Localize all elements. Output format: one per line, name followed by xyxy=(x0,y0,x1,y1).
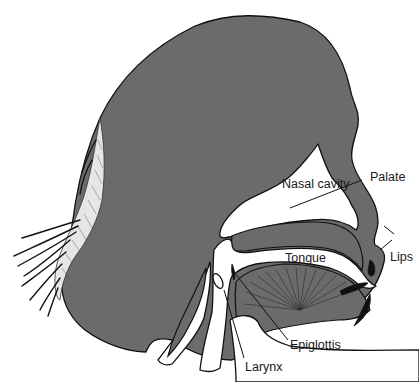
larynx-label: Larynx xyxy=(245,360,283,374)
vocal-tract-diagram: Palate Nasal cavity Tongue Lips Epiglott… xyxy=(0,0,419,382)
lips-leader-lower xyxy=(380,240,392,250)
palate-label: Palate xyxy=(370,170,405,184)
nasal-cavity-label: Nasal cavity xyxy=(282,177,350,191)
tongue-label: Tongue xyxy=(285,251,326,265)
lips-label: Lips xyxy=(390,250,413,264)
epiglottis-label: Epiglottis xyxy=(290,338,341,352)
lips-leader-upper xyxy=(384,226,394,234)
